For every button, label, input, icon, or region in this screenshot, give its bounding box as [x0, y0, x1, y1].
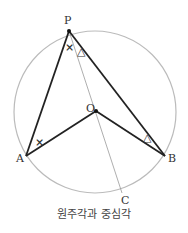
- angle-mark-triangle-B: △: [143, 131, 152, 144]
- angle-mark-triangle-P: △: [77, 45, 86, 58]
- point-P: [67, 29, 71, 33]
- label-P: P: [64, 14, 72, 27]
- inscribed-central-angle-diagram: × × △ △ P A B O C: [0, 0, 188, 233]
- diagram-caption: 원주각과 중심각: [0, 205, 188, 221]
- angle-mark-x-P: ×: [65, 41, 74, 54]
- label-B: B: [168, 152, 176, 165]
- label-A: A: [15, 152, 25, 165]
- segment-PA: [26, 31, 69, 156]
- angle-mark-x-A: ×: [35, 136, 44, 149]
- label-O: O: [86, 102, 95, 115]
- segment-OA: [26, 111, 96, 156]
- segment-OB: [96, 111, 165, 156]
